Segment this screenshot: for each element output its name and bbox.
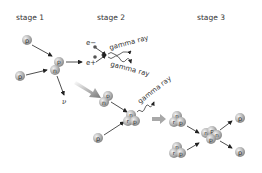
svg-text:p: p <box>133 118 137 126</box>
svg-text:p: p <box>209 136 213 144</box>
svg-text:e+: e+ <box>86 59 96 67</box>
small-arrow-icon <box>152 114 166 124</box>
stage-2-fusion: p n p n r p gamma ray <box>93 75 173 143</box>
svg-text:p: p <box>179 150 183 158</box>
svg-text:n: n <box>215 132 219 138</box>
stage-1-group: p p p n ν <box>15 35 82 106</box>
svg-text:gamma ray: gamma ray <box>136 75 173 106</box>
svg-text:n: n <box>102 99 106 106</box>
svg-text:p: p <box>18 73 22 81</box>
svg-text:ν: ν <box>62 98 67 106</box>
diagram-canvas: p p p n ν e− e+ gam <box>0 0 262 173</box>
svg-text:p: p <box>179 119 183 127</box>
svg-text:p: p <box>238 115 242 123</box>
svg-text:gamma ray: gamma ray <box>108 34 149 52</box>
pp-chain-diagram: stage 1 stage 2 stage 3 p p <box>0 0 262 173</box>
svg-text:gamma ray: gamma ray <box>109 60 150 78</box>
svg-text:n: n <box>53 67 57 74</box>
svg-text:p: p <box>25 37 29 45</box>
svg-text:p: p <box>57 58 61 66</box>
stage-2-annihilation: e− e+ gamma ray gamma ray <box>86 34 150 79</box>
svg-text:p: p <box>238 149 242 157</box>
stage-3-group: n r p n r p n p n p p <box>169 111 245 158</box>
big-arrow-icon <box>74 81 101 98</box>
svg-text:p: p <box>96 135 100 143</box>
